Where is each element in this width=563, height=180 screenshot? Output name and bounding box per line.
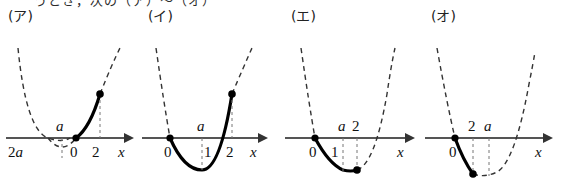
label-2-e: 2	[352, 118, 360, 134]
solid-endpoint-right-a	[96, 90, 104, 98]
parabola-dashed-right-e	[357, 48, 395, 170]
panel-e: (エ) 0 1 a 2 x	[283, 8, 423, 180]
parabola-dashed-right-i	[232, 48, 252, 94]
label-1-i: 1	[204, 144, 212, 160]
label-2-o: 2	[468, 118, 476, 134]
graph-i: 0 1 2 a x	[140, 24, 280, 180]
label-2-a: 2	[92, 144, 100, 160]
label-0-i: 0	[164, 144, 172, 160]
solid-endpoint-left-e	[311, 134, 318, 141]
label-1-e: 1	[331, 144, 339, 160]
x-axis-arrow-a	[124, 133, 134, 143]
parabola-dashed-left-e	[301, 48, 315, 138]
x-axis-arrow-e	[405, 133, 415, 143]
graph-a: 2a 0 2 a x	[0, 24, 140, 180]
panel-a: (ア) 2a 0 2 a x	[0, 8, 140, 180]
solid-endpoint-right-i	[228, 90, 236, 98]
x-axis-label-o: x	[534, 144, 542, 160]
parabola-dashed-left-o	[437, 48, 455, 138]
label-0-o: 0	[449, 144, 457, 160]
x-axis-label-i: x	[249, 144, 257, 160]
x-axis-label-e: x	[396, 144, 404, 160]
panel-o: (オ) 0 2 a x	[423, 8, 563, 180]
label-0-e: 0	[309, 144, 317, 160]
parabola-dashed-left-i	[156, 48, 170, 138]
label-a-a: a	[56, 118, 64, 134]
graph-e: 0 1 a 2 x	[283, 24, 423, 180]
panel-i: (イ) 0 1 2 a x	[140, 8, 280, 180]
label-a-e: a	[338, 118, 346, 134]
label-2a-a: 2a	[8, 144, 23, 160]
graph-o: 0 2 a x	[423, 24, 563, 180]
x-axis-label-a: x	[117, 144, 125, 160]
parabola-dashed-right-o	[473, 52, 535, 176]
parabola-solid-arc-o	[455, 138, 473, 174]
panel-label-e: (エ)	[291, 8, 316, 24]
solid-endpoint-right-e	[353, 166, 361, 174]
parabola-dashed-right-a	[100, 48, 120, 94]
cut-off-text: うとき，次の（ア）～（オ）	[34, 0, 563, 7]
label-0-a: 0	[70, 144, 78, 160]
label-2-i: 2	[226, 144, 234, 160]
label-a-i: a	[197, 118, 205, 134]
solid-endpoint-left-o	[451, 134, 458, 141]
solid-endpoint-left-i	[166, 134, 173, 141]
x-axis-arrow-i	[258, 133, 268, 143]
solid-endpoint-left-a	[72, 134, 79, 141]
parabola-solid-arc-a	[76, 94, 100, 138]
figure-page: うとき，次の（ア）～（オ） (ア) 2a 0 2 a x	[0, 0, 563, 180]
panel-label-o: (オ)	[431, 8, 456, 24]
panel-label-i: (イ)	[148, 8, 173, 24]
x-axis-arrow-o	[543, 133, 553, 143]
panel-label-a: (ア)	[8, 8, 33, 24]
label-a-o: a	[484, 118, 492, 134]
solid-endpoint-right-o	[469, 170, 477, 178]
